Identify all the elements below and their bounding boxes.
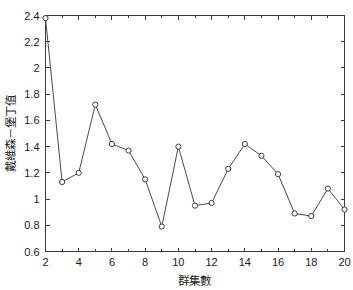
data-point bbox=[325, 186, 330, 191]
y-tick-label: 0.8 bbox=[24, 219, 39, 231]
data-point bbox=[76, 170, 81, 175]
y-tick-label: 1.8 bbox=[24, 88, 39, 100]
y-tick-label: 1 bbox=[33, 193, 39, 205]
data-point bbox=[60, 179, 65, 184]
x-tick-label: 4 bbox=[76, 256, 82, 268]
data-point bbox=[143, 177, 148, 182]
y-tick-label: 2 bbox=[33, 62, 39, 74]
x-tick-label: 10 bbox=[172, 256, 184, 268]
y-tick-label: 1.6 bbox=[24, 114, 39, 126]
data-point bbox=[43, 16, 48, 21]
chart-figure: 2468101214161820 0.60.811.21.41.61.822.2… bbox=[0, 0, 353, 290]
data-point-markers bbox=[43, 16, 347, 230]
y-tick-label: 0.6 bbox=[24, 246, 39, 258]
axis-ticks bbox=[46, 16, 345, 252]
x-tick-label: 6 bbox=[109, 256, 115, 268]
data-point bbox=[292, 211, 297, 216]
x-tick-label: 8 bbox=[142, 256, 148, 268]
data-point bbox=[309, 214, 314, 219]
data-point bbox=[93, 102, 98, 107]
x-tick-label: 20 bbox=[338, 256, 350, 268]
y-tick-label: 1.2 bbox=[24, 167, 39, 179]
data-series-line bbox=[46, 18, 345, 226]
data-point bbox=[176, 144, 181, 149]
data-point bbox=[109, 141, 114, 146]
x-tick-label: 12 bbox=[205, 256, 217, 268]
axes-frame bbox=[46, 16, 345, 252]
data-point bbox=[259, 153, 264, 158]
line-chart: 2468101214161820 0.60.811.21.41.61.822.2… bbox=[0, 0, 353, 290]
data-point bbox=[159, 224, 164, 229]
y-axis-title: 戴維森－堡丁值 bbox=[4, 94, 18, 172]
x-tick-label: 14 bbox=[239, 256, 251, 268]
y-tick-label: 1.4 bbox=[24, 141, 39, 153]
data-point bbox=[342, 207, 347, 212]
y-tick-labels: 0.60.811.21.41.61.822.22.4 bbox=[24, 10, 39, 258]
y-tick-label: 2.4 bbox=[24, 10, 39, 22]
x-tick-labels: 2468101214161820 bbox=[42, 256, 350, 268]
x-axis-title: 群集數 bbox=[178, 274, 212, 288]
data-point bbox=[209, 200, 214, 205]
x-tick-label: 18 bbox=[305, 256, 317, 268]
data-point bbox=[126, 148, 131, 153]
y-tick-label: 2.2 bbox=[24, 36, 39, 48]
data-point bbox=[226, 166, 231, 171]
x-tick-label: 2 bbox=[42, 256, 48, 268]
x-tick-label: 16 bbox=[272, 256, 284, 268]
data-point bbox=[275, 172, 280, 177]
data-point bbox=[242, 141, 247, 146]
data-point bbox=[192, 203, 197, 208]
